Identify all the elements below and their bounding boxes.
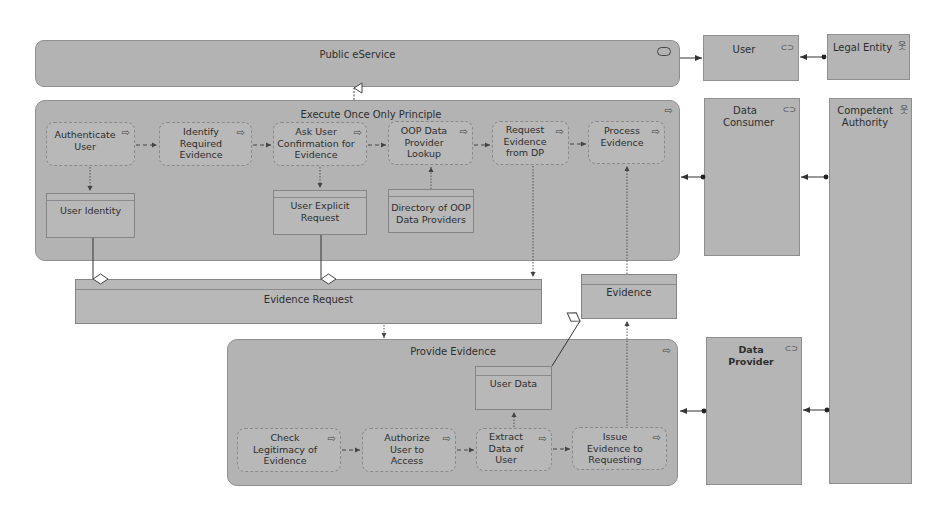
step-label: Authenticate User [51,129,119,152]
process-icon: ⇨ [328,434,336,444]
process-icon: ⇨ [539,434,547,444]
actor-competent-authority-label: Competent Authority [836,105,894,128]
role-icon: ⊂⊃ [783,105,796,115]
process-icon: ⇨ [354,128,362,138]
step-label: OOP Data Provider Lookup [395,125,453,160]
actor-legal-entity-label: Legal Entity [828,42,897,54]
step-label: Ask User Confirmation for Evidence [276,126,356,161]
process-icon: ⇨ [443,434,451,444]
step-label: Process Evidence [599,125,645,148]
object-band [389,196,473,197]
step-check-legitimacy[interactable]: Check Legitimacy of Evidence ⇨ [237,428,341,472]
step-identify-required-evidence[interactable]: Identify Required Evidence ⇨ [159,122,252,166]
object-evidence-request[interactable]: Evidence Request [75,279,542,324]
process-icon: ⇨ [237,128,245,138]
step-label: Extract Data of User [483,431,529,466]
object-band [274,197,366,198]
step-label: Issue Evidence to Requesting [581,431,649,466]
role-data-consumer[interactable]: Data Consumer ⊂⊃ [704,98,800,256]
object-label: User Explicit Request [288,200,352,223]
object-user-identity[interactable]: User Identity [46,193,135,238]
object-band [476,375,551,376]
step-issue-evidence[interactable]: Issue Evidence to Requesting ⇨ [572,427,667,470]
role-user-label: User [704,44,784,56]
object-user-data[interactable]: User Data [475,366,552,410]
process-icon: ⇨ [665,106,673,116]
role-icon: ⊂⊃ [781,43,794,53]
step-label: Request Evidence from DP [499,124,551,159]
object-band [582,284,676,285]
step-label: Authorize User to Access [379,432,435,467]
step-oop-data-provider-lookup[interactable]: OOP Data Provider Lookup ⇨ [388,121,473,165]
object-label: Directory of OOP Data Providers [391,202,471,225]
role-data-provider-label: Data Provider [717,344,785,367]
role-user[interactable]: User ⊂⊃ [703,35,799,81]
role-data-provider[interactable]: Data Provider ⊂⊃ [706,337,802,485]
public-eservice[interactable]: Public eService [35,40,680,87]
actor-icon: 웃 [898,41,906,51]
provide-evidence-label: Provide Evidence [378,346,528,358]
step-request-evidence-from-dp[interactable]: Request Evidence from DP ⇨ [492,121,569,165]
object-band [47,200,134,201]
actor-icon: 웃 [900,105,908,115]
object-user-explicit-request[interactable]: User Explicit Request [273,190,367,235]
role-icon: ⊂⊃ [785,344,798,354]
step-label: Check Legitimacy of Evidence [250,432,320,467]
object-label: User Identity [47,205,134,217]
service-icon [657,47,671,56]
public-eservice-label: Public eService [36,49,679,61]
step-ask-user-confirmation[interactable]: Ask User Confirmation for Evidence ⇨ [273,122,367,166]
step-extract-data-of-user[interactable]: Extract Data of User ⇨ [476,428,552,471]
object-directory-oop-providers[interactable]: Directory of OOP Data Providers [388,189,474,233]
actor-competent-authority[interactable]: Competent Authority 웃 [829,98,912,484]
process-icon: ⇨ [653,433,661,443]
object-label: User Data [476,378,551,390]
process-icon: ⇨ [460,127,468,137]
role-data-consumer-label: Data Consumer [723,105,767,128]
process-icon: ⇨ [556,127,564,137]
process-icon: ⇨ [652,127,660,137]
object-label: Evidence Request [76,294,541,306]
step-label: Identify Required Evidence [170,126,232,161]
object-band [76,289,541,290]
step-authorize-user[interactable]: Authorize User to Access ⇨ [362,428,456,472]
step-process-evidence[interactable]: Process Evidence ⇨ [588,121,665,164]
process-icon: ⇨ [122,128,130,138]
step-authenticate-user[interactable]: Authenticate User ⇨ [46,122,135,166]
object-evidence[interactable]: Evidence [581,274,677,319]
process-icon: ⇨ [663,346,671,356]
actor-legal-entity[interactable]: Legal Entity 웃 [827,34,910,80]
execute-oop-label: Execute Once Only Principle [266,109,476,121]
object-label: Evidence [582,287,676,299]
